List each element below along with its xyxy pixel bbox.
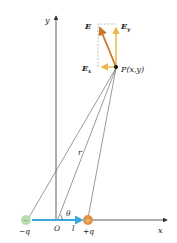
negative-charge-sign: − <box>23 217 29 225</box>
origin-label: O <box>54 224 60 233</box>
line-neg-charge-to-p <box>28 68 116 219</box>
positive-charge-sign: + <box>85 217 91 225</box>
point-p-label: P(x,y) <box>120 65 144 74</box>
ex-label: Ex <box>81 63 92 74</box>
pos-charge-label: +q <box>83 227 94 236</box>
y-axis-label: y <box>44 16 50 25</box>
theta-label: θ <box>66 209 71 218</box>
neg-charge-label: −q <box>19 227 30 236</box>
ey-label: Ey <box>120 21 131 33</box>
x-axis-label: x <box>158 226 163 235</box>
line-pos-charge-to-p <box>88 68 116 218</box>
e-label: E <box>84 21 92 31</box>
e-vector <box>100 28 116 67</box>
point-p <box>114 65 118 69</box>
dipole-diagram: − + y x E Ey Ex P(x,y) r θ O l −q +q <box>0 0 177 243</box>
l-label: l <box>72 224 75 233</box>
line-r-origin-to-p <box>58 68 116 219</box>
